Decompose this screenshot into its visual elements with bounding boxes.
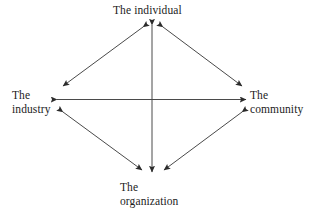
node-label-community: The community: [250, 89, 303, 116]
node-label-community-line1: The: [250, 89, 303, 103]
node-label-industry-line2: industry: [12, 103, 51, 117]
node-label-industry-line1: The: [12, 89, 51, 103]
arrow-individual-community: [163, 27, 242, 86]
node-label-organization-line2: organization: [120, 195, 178, 209]
node-label-organization: The organization: [120, 181, 178, 208]
node-label-organization-line1: The: [120, 181, 178, 195]
node-label-industry: The industry: [12, 89, 51, 116]
diagram-canvas: The individual The industry The communit…: [0, 0, 319, 219]
arrow-community-organization: [164, 112, 242, 170]
node-label-individual: The individual: [113, 4, 182, 18]
arrow-individual-industry: [63, 27, 143, 86]
node-label-individual-line1: The individual: [113, 4, 182, 18]
arrow-industry-organization: [63, 112, 142, 170]
node-label-community-line2: community: [250, 103, 303, 117]
